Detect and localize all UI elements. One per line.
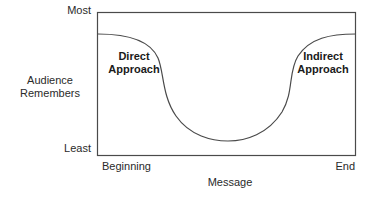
y-axis-title-line-1: Audience xyxy=(15,74,85,87)
x-axis-title: Message xyxy=(200,176,260,189)
x-axis-min-label: Beginning xyxy=(102,160,151,173)
direct-approach-line-2: Approach xyxy=(108,63,160,76)
indirect-approach-line-1: Indirect xyxy=(294,50,352,63)
direct-approach-label: Direct Approach xyxy=(108,50,160,76)
memory-curve-plot xyxy=(0,0,377,201)
direct-approach-line-1: Direct xyxy=(108,50,160,63)
y-axis-max-label: Most xyxy=(67,4,91,17)
y-axis-title-line-2: Remembers xyxy=(15,87,85,100)
plot-frame xyxy=(98,13,356,156)
y-axis-title: Audience Remembers xyxy=(15,74,85,100)
indirect-approach-label: Indirect Approach xyxy=(294,50,352,76)
x-axis-max-label: End xyxy=(335,160,355,173)
indirect-approach-line-2: Approach xyxy=(294,63,352,76)
y-axis-min-label: Least xyxy=(64,142,91,155)
